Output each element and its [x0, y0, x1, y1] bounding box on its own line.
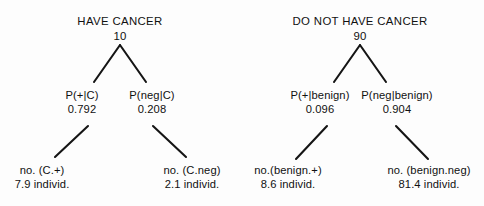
edge-benign-pos-leaf: [296, 126, 327, 159]
node-no-cancer-negative-value: 2.1 individ.: [163, 177, 220, 191]
node-p-neg-given-benign-label: P(neg|benign): [361, 88, 432, 102]
node-no-benign-negative: no. (benign.neg) 81.4 individ.: [387, 163, 470, 192]
node-no-cancer-negative: no. (C.neg) 2.1 individ.: [163, 163, 220, 192]
node-p-neg-given-cancer-value: 0.208: [129, 102, 174, 116]
node-no-benign-positive: no.(benign.+) 8.6 individ.: [254, 163, 322, 192]
node-no-cancer-negative-label: no. (C.neg): [163, 163, 220, 177]
edge-cancer-pos-leaf: [55, 126, 88, 157]
node-no-benign-positive-label: no.(benign.+): [254, 163, 322, 177]
node-p-neg-given-benign: P(neg|benign) 0.904: [361, 88, 432, 117]
node-p-pos-given-benign: P(+|benign) 0.096: [290, 88, 349, 117]
node-p-pos-given-benign-label: P(+|benign): [290, 88, 349, 102]
node-no-cancer-positive-label: no. (C.+): [15, 163, 70, 177]
node-no-benign-negative-label: no. (benign.neg): [387, 163, 470, 177]
node-p-neg-given-cancer: P(neg|C) 0.208: [129, 88, 174, 117]
node-no-benign-positive-value: 8.6 individ.: [254, 177, 322, 191]
edge-benign-neg-leaf: [396, 126, 428, 159]
node-do-not-have-cancer-value: 90: [293, 29, 428, 44]
probability-tree-diagram: HAVE CANCER 10 P(+|C) 0.792 P(neg|C) 0.2…: [0, 0, 484, 206]
node-do-not-have-cancer: DO NOT HAVE CANCER 90: [293, 14, 428, 43]
node-p-pos-given-benign-value: 0.096: [290, 102, 349, 116]
node-p-pos-given-cancer: P(+|C) 0.792: [65, 88, 98, 117]
node-have-cancer: HAVE CANCER 10: [77, 14, 162, 43]
edge-cancer-apex-right: [120, 45, 146, 82]
node-no-cancer-positive-value: 7.9 individ.: [15, 177, 70, 191]
node-p-neg-given-benign-value: 0.904: [361, 102, 432, 116]
node-p-pos-given-cancer-label: P(+|C): [65, 88, 98, 102]
node-have-cancer-label: HAVE CANCER: [77, 14, 162, 29]
node-p-pos-given-cancer-value: 0.792: [65, 102, 98, 116]
edge-cancer-apex-left: [94, 45, 120, 82]
node-have-cancer-value: 10: [77, 29, 162, 44]
edge-cancer-neg-leaf: [153, 126, 186, 157]
node-no-cancer-positive: no. (C.+) 7.9 individ.: [15, 163, 70, 192]
edge-benign-apex-left: [334, 45, 360, 82]
edge-benign-apex-right: [360, 45, 386, 82]
node-p-neg-given-cancer-label: P(neg|C): [129, 88, 174, 102]
node-no-benign-negative-value: 81.4 individ.: [387, 177, 470, 191]
node-do-not-have-cancer-label: DO NOT HAVE CANCER: [293, 14, 428, 29]
